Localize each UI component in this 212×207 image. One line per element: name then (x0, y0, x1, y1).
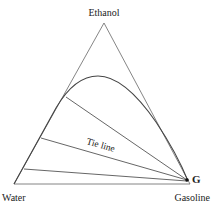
point-g-marker (185, 178, 189, 182)
ternary-triangle (14, 23, 190, 184)
tie-line-3 (24, 169, 187, 181)
tie-line-label: Tie line (86, 136, 117, 154)
point-label-g: G (192, 173, 201, 185)
tie-line-1 (66, 97, 187, 180)
binodal-curve (14, 76, 188, 184)
vertex-label-water: Water (2, 192, 26, 203)
vertex-label-ethanol: Ethanol (88, 7, 119, 18)
ternary-diagram: Ethanol Water Gasoline G Tie line (0, 0, 212, 207)
vertex-label-gasoline: Gasoline (174, 192, 210, 203)
